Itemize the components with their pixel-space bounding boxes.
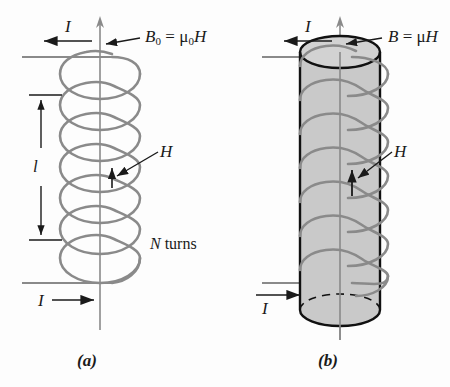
current-label-bottom-a: I	[38, 292, 44, 309]
turns-symbol: N	[150, 235, 161, 252]
figure-vector-graphics	[0, 0, 450, 387]
h-label-a: H	[160, 143, 172, 160]
b0-subscript: 0	[155, 35, 161, 47]
h-label-b: H	[394, 143, 406, 160]
h-symbol-b: H	[426, 27, 438, 46]
caption-a: (a)	[77, 352, 97, 369]
mu0-symbol: μ	[179, 27, 188, 46]
equals-sign-b: =	[403, 27, 413, 46]
caption-b: (b)	[318, 352, 338, 369]
equals-sign-a: =	[165, 27, 175, 46]
b0-leader-a	[106, 38, 140, 44]
turns-label-a: N turns	[150, 236, 197, 252]
length-label-a: l	[33, 158, 38, 175]
current-label-top-a: I	[65, 18, 71, 35]
mu-symbol: μ	[416, 27, 425, 46]
turns-word: turns	[165, 235, 197, 252]
current-label-bottom-b: I	[262, 300, 268, 317]
solenoid-figure: I B0 = μ0H l H N turns I (a) I B = μH H …	[0, 0, 450, 387]
panel-b-graphics	[256, 16, 392, 340]
b0-formula-label-a: B0 = μ0H	[145, 28, 206, 47]
b-formula-label-b: B = μH	[388, 28, 438, 45]
panel-a-graphics	[22, 16, 158, 330]
b0-symbol: B	[145, 27, 155, 46]
b-symbol: B	[388, 27, 398, 46]
current-label-top-b: I	[305, 18, 311, 35]
h-symbol-a: H	[194, 27, 206, 46]
